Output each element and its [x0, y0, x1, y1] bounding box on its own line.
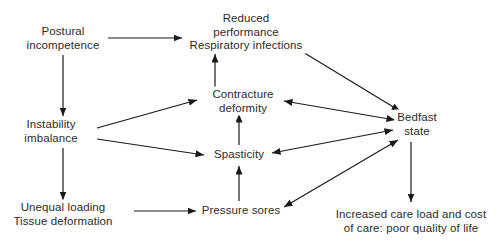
edge-pressure-bedfast: [284, 140, 398, 207]
node-pressure-sores: Pressure sores: [199, 203, 284, 219]
node-label-line: Unequal loading: [13, 201, 112, 215]
node-label-line: Bedfast: [397, 111, 437, 125]
node-label-line: incompetence: [27, 38, 100, 52]
node-label-line: Postural: [27, 25, 100, 39]
node-label-line: deformity: [212, 101, 273, 115]
node-instability-imbalance: Instabilityimbalance: [21, 117, 80, 146]
node-label-line: state: [397, 124, 437, 138]
node-label-line: Respiratory infections: [190, 39, 303, 53]
node-bedfast-state: Bedfaststate: [394, 110, 440, 139]
node-label-line: Reduced: [190, 12, 303, 26]
node-spasticity: Spasticity: [211, 147, 267, 163]
diagram-canvas: PosturalincompetenceReducedperformanceRe…: [0, 0, 501, 247]
node-contracture-deformity: Contracturedeformity: [209, 87, 276, 116]
node-label-line: Contracture: [212, 88, 273, 102]
node-label-line: performance: [190, 25, 303, 39]
node-label-line: of care: poor quality of life: [336, 221, 486, 235]
node-label-line: Increased care load and cost: [336, 208, 486, 222]
node-label-line: Instability: [24, 118, 77, 132]
edge-spasticity-bedfast: [272, 130, 393, 153]
node-label-line: Spasticity: [214, 148, 264, 162]
node-label-line: Tissue deformation: [13, 214, 112, 228]
node-reduced-performance-respiratory-infections: ReducedperformanceRespiratory infections: [187, 11, 306, 54]
node-unequal-loading-tissue-deformation: Unequal loadingTissue deformation: [10, 200, 115, 229]
node-increased-care-load-quality-of-life: Increased care load and costof care: poo…: [333, 207, 489, 236]
node-postural-incompetence: Posturalincompetence: [24, 24, 103, 53]
edge-instability-to-contracture: [97, 100, 197, 128]
node-label-line: Pressure sores: [202, 204, 281, 218]
edge-contracture-bedfast: [284, 101, 395, 120]
edge-instability-to-spasticity: [97, 139, 204, 155]
node-label-line: imbalance: [24, 131, 77, 145]
